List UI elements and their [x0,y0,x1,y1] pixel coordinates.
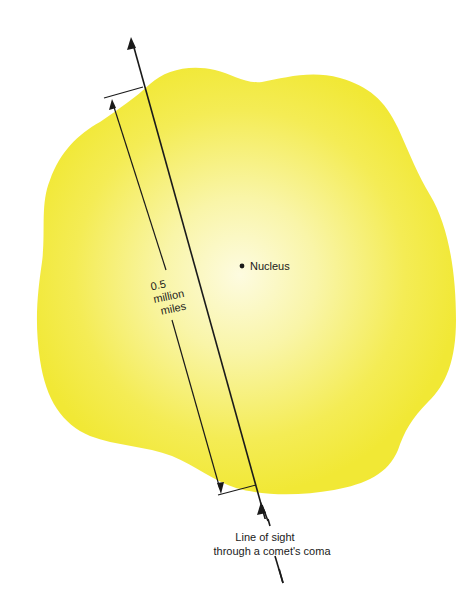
label-gap-mask [240,519,280,569]
sight-caption-line2: through a comet's coma [213,545,331,557]
comet-coma-diagram: 0.5 million miles Nucleus Line of sight … [0,0,458,614]
dimension-arrowhead-bottom-icon [217,482,224,494]
nucleus-dot [240,264,245,269]
sight-caption-line1: Line of sight [235,531,294,543]
coma-cloud [37,68,456,495]
line-of-sight-arrowhead-icon [127,37,136,50]
nucleus-label: Nucleus [250,260,290,272]
